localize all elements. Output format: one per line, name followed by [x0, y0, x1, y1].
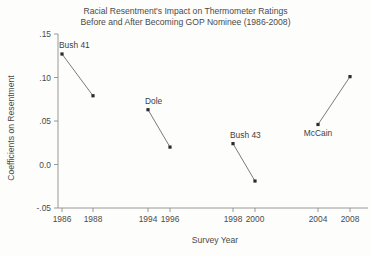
series-dole: Dole — [145, 96, 172, 149]
x-tick-label-5: 2000 — [246, 214, 265, 224]
series-mccain: McCain — [304, 75, 352, 138]
chart-plot-area: .15.10.050.0-.05 19861988199419961998200… — [0, 0, 371, 256]
series-label: McCain — [304, 128, 333, 138]
x-axis: 19861988199419961998200020042008 — [53, 208, 368, 224]
series-bush-41: Bush 41 — [59, 40, 95, 97]
series-line — [318, 77, 350, 125]
series-bush-43: Bush 43 — [230, 130, 261, 183]
series-label: Dole — [145, 96, 163, 106]
y-axis: .15.10.050.0-.05 — [37, 29, 58, 213]
data-point — [91, 94, 94, 97]
y-tick-label-4: -.05 — [37, 203, 52, 213]
data-point — [168, 146, 171, 149]
y-tick-label-0: .15 — [39, 29, 51, 39]
x-tick-label-3: 1996 — [161, 214, 180, 224]
x-tick-label-1: 1988 — [84, 214, 103, 224]
y-axis-title: Coefficients on Resentment — [6, 75, 16, 181]
y-tick-label-2: .05 — [39, 116, 51, 126]
series-line — [148, 110, 170, 147]
data-point — [253, 179, 256, 182]
x-tick-label-0: 1986 — [53, 214, 72, 224]
data-point — [146, 108, 149, 111]
data-point — [60, 52, 63, 55]
x-tick-label-4: 1998 — [224, 214, 243, 224]
series-label: Bush 43 — [230, 130, 261, 140]
x-tick-label-6: 2004 — [309, 214, 328, 224]
series-line — [62, 54, 93, 96]
data-point — [348, 75, 351, 78]
y-tick-label-3: 0.0 — [39, 160, 51, 170]
x-tick-label-2: 1994 — [139, 214, 158, 224]
chart-screenshot: Racial Resentment's Impact on Thermomete… — [0, 0, 371, 256]
data-point — [231, 142, 234, 145]
y-tick-label-1: .10 — [39, 73, 51, 83]
series-label: Bush 41 — [59, 40, 90, 50]
x-axis-title: Survey Year — [192, 235, 238, 245]
data-series-group: Bush 41DoleBush 43McCain — [59, 40, 352, 183]
x-tick-label-7: 2008 — [341, 214, 360, 224]
series-line — [233, 144, 255, 181]
data-point — [316, 123, 319, 126]
